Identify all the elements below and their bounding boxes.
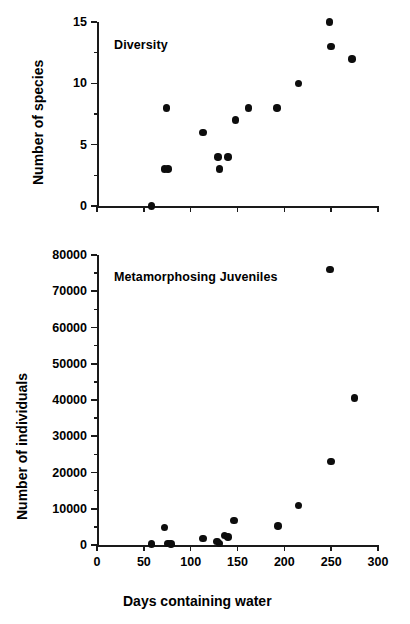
x-tick-major	[237, 545, 239, 551]
data-point	[199, 535, 207, 543]
data-point	[295, 502, 303, 510]
y-tick-label: 80000	[43, 249, 87, 262]
x-tick-label: 200	[274, 556, 295, 569]
y-tick-major	[91, 435, 97, 437]
x-tick-major	[377, 206, 379, 212]
y-tick-label: 30000	[43, 430, 87, 443]
y-tick-label: 0	[43, 539, 87, 552]
y-tick-major	[91, 83, 97, 85]
data-point	[148, 202, 156, 210]
x-tick-major	[96, 545, 98, 551]
x-tick-major	[284, 206, 286, 212]
data-point	[348, 55, 356, 63]
x-tick-major	[190, 206, 192, 212]
data-point	[327, 458, 335, 466]
y-tick-major	[91, 290, 97, 292]
data-point	[327, 43, 335, 51]
y-tick-label: 5	[61, 138, 87, 151]
data-point	[216, 165, 224, 173]
y-tick-major	[91, 327, 97, 329]
x-tick-label: 300	[368, 556, 389, 569]
data-point	[326, 18, 334, 26]
data-point	[167, 540, 175, 548]
data-point	[224, 153, 232, 161]
y-tick-label: 40000	[43, 394, 87, 407]
data-point	[295, 80, 303, 88]
y-tick-major	[91, 254, 97, 256]
x-tick-major	[96, 206, 98, 212]
x-tick-label: 150	[227, 556, 248, 569]
y-tick-label: 70000	[43, 285, 87, 298]
y-tick-label: 15	[61, 16, 87, 29]
y-tick-major	[91, 399, 97, 401]
data-point	[274, 522, 282, 530]
y-tick-label: 50000	[43, 358, 87, 371]
y-axis-title-number-of-individuals: Number of individuals	[14, 373, 30, 520]
data-point	[199, 129, 207, 137]
x-tick-major	[143, 206, 145, 212]
data-point	[164, 165, 172, 173]
data-point	[326, 266, 334, 274]
x-tick-major	[237, 206, 239, 212]
x-tick-major	[330, 206, 332, 212]
y-axis-line	[97, 255, 99, 546]
x-tick-major	[190, 545, 192, 551]
y-tick-major	[91, 21, 97, 23]
y-tick-label: 10000	[43, 503, 87, 516]
y-tick-minor	[94, 309, 98, 311]
plot-area-metamorphosing-juveniles: 0100002000030000400005000060000700008000…	[0, 230, 410, 624]
y-tick-minor	[94, 490, 98, 492]
x-tick-label: 100	[180, 556, 201, 569]
y-tick-minor	[94, 345, 98, 347]
x-tick-label: 0	[94, 556, 101, 569]
y-tick-major	[91, 508, 97, 510]
data-point	[232, 116, 240, 124]
y-tick-minor	[94, 381, 98, 383]
y-axis-title-number-of-species: Number of species	[30, 60, 46, 185]
x-axis-title-days-containing-water: Days containing water	[123, 593, 272, 609]
y-tick-minor	[94, 454, 98, 456]
y-tick-major	[91, 363, 97, 365]
y-tick-minor	[94, 526, 98, 528]
x-tick-major	[330, 545, 332, 551]
y-tick-major	[91, 472, 97, 474]
y-tick-minor	[94, 272, 98, 274]
figure-container: 051015 Diversity Number of species 01000…	[0, 0, 410, 624]
data-point	[214, 153, 222, 161]
y-tick-label: 20000	[43, 466, 87, 479]
panel-metamorphosing-juveniles: 0100002000030000400005000060000700008000…	[0, 230, 410, 624]
data-point	[245, 104, 253, 112]
x-tick-major	[284, 545, 286, 551]
data-point	[224, 533, 232, 541]
data-point	[161, 524, 169, 532]
panel-title-diversity: Diversity	[114, 38, 168, 52]
data-point	[230, 517, 238, 525]
y-tick-label: 60000	[43, 321, 87, 334]
x-tick-major	[377, 545, 379, 551]
y-tick-minor	[94, 417, 98, 419]
y-tick-minor	[94, 175, 98, 177]
x-tick-label: 250	[321, 556, 342, 569]
y-axis-line	[97, 22, 99, 207]
panel-diversity: 051015 Diversity Number of species	[0, 0, 410, 230]
data-point	[273, 104, 281, 112]
data-point	[148, 540, 156, 548]
data-point	[351, 394, 359, 402]
y-tick-major	[91, 144, 97, 146]
data-point	[163, 104, 171, 112]
x-tick-label: 50	[137, 556, 151, 569]
y-tick-minor	[94, 52, 98, 54]
y-tick-label: 10	[61, 77, 87, 90]
plot-area-diversity: 051015	[0, 0, 410, 230]
y-tick-label: 0	[61, 200, 87, 213]
x-tick-major	[143, 545, 145, 551]
y-tick-minor	[94, 113, 98, 115]
panel-title-metamorphosing-juveniles: Metamorphosing Juveniles	[114, 270, 278, 284]
